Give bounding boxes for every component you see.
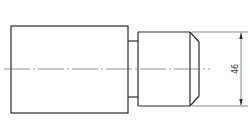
arrow-down-icon — [239, 99, 242, 106]
technical-drawing: 46 — [0, 0, 250, 127]
dimension-label: 46 — [231, 64, 240, 74]
large-cylinder-section — [11, 26, 128, 113]
arrow-up-icon — [239, 33, 242, 40]
